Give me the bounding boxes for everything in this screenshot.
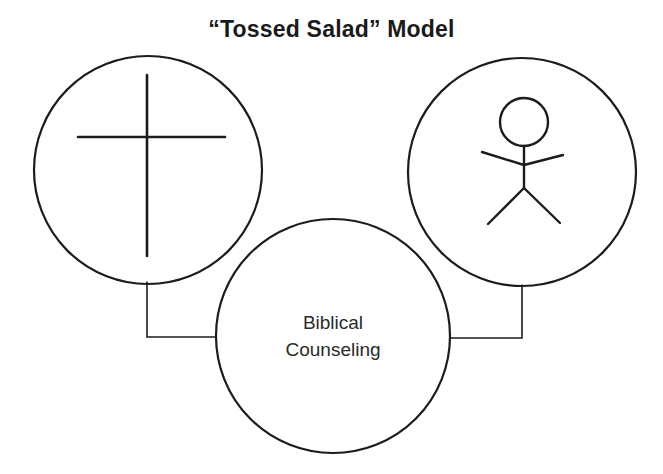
- node-right: [408, 58, 636, 286]
- connector-left-to-center: [147, 282, 216, 337]
- node-left: [34, 56, 262, 284]
- right-circle: [408, 58, 636, 286]
- center-node-label: Biblical Counseling: [233, 309, 433, 363]
- diagram-canvas: [0, 0, 663, 474]
- center-label-line1: Biblical: [233, 309, 433, 336]
- cross-icon: [78, 75, 225, 256]
- stick-figure-icon: [482, 98, 563, 224]
- center-label-line2: Counseling: [233, 336, 433, 363]
- connector-right-to-center: [450, 285, 522, 338]
